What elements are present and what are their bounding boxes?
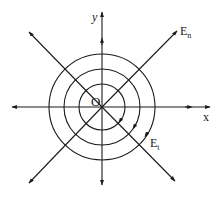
tangential-field-subscript: t: [157, 143, 160, 152]
tangential-arrows: [120, 118, 148, 135]
normal-field-symbol: E: [180, 24, 187, 38]
field-diagram: O x y En Et: [0, 0, 222, 197]
tangential-field-symbol: E: [150, 136, 157, 150]
y-axis-label: y: [91, 10, 98, 24]
normal-field-label: En: [180, 24, 191, 40]
tangential-field-label: Et: [150, 136, 160, 152]
normal-field-subscript: n: [187, 31, 191, 40]
x-axis-label: x: [203, 110, 209, 124]
radial-line-ne: [102, 31, 177, 107]
origin-label: O: [91, 94, 100, 109]
